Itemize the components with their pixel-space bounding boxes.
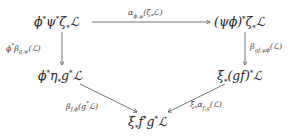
label-arrow-bottom-left: βf,ϕ(g*ℒ): [66, 100, 98, 112]
label-arrow-bottom-right: ξ*αf,g(ℒ): [190, 100, 222, 111]
label-arrow-left: ϕ*βg,ψ(ℒ): [6, 42, 41, 54]
label-arrow-top: αϕ,ψ(ζ*ℒ): [128, 8, 163, 19]
node-bottom: ξ*f*g*ℒ: [128, 114, 167, 132]
node-mid-left: ϕ*η*g*ℒ: [38, 68, 82, 86]
node-top-left: ϕ*ψ*ζ*ℒ: [34, 14, 79, 32]
node-mid-right: ξ*(gf)*ℒ: [217, 68, 262, 86]
label-arrow-right: βgf,ψϕ(ℒ): [250, 42, 282, 53]
node-top-right: (ψϕ)*ζ*ℒ: [214, 14, 265, 32]
